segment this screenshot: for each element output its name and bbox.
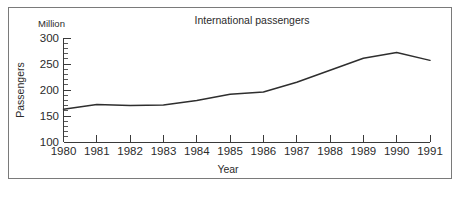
x-tick-label-1986: 1986 — [251, 145, 277, 157]
data-series-line — [64, 53, 431, 110]
y-tick-label-250: 250 — [40, 58, 59, 70]
y-tick-label-200: 200 — [40, 84, 59, 96]
x-tick-label-1988: 1988 — [317, 145, 343, 157]
x-tick-label-1983: 1983 — [151, 145, 177, 157]
y-tick-label-300: 300 — [40, 32, 59, 44]
y-tick-label-150: 150 — [40, 110, 59, 122]
x-tick-label-1982: 1982 — [117, 145, 143, 157]
x-tick-label-1985: 1985 — [217, 145, 243, 157]
figure-container: International passengers Million Passeng… — [0, 0, 467, 197]
line-chart: International passengers Million Passeng… — [0, 0, 467, 197]
x-axis-title: Year — [217, 163, 239, 175]
x-tick-label-1984: 1984 — [184, 145, 210, 157]
x-tick-label-1991: 1991 — [417, 145, 443, 157]
x-tick-label-1990: 1990 — [384, 145, 410, 157]
chart-title: International passengers — [195, 14, 310, 26]
x-tick-label-1987: 1987 — [284, 145, 310, 157]
x-tick-label-1980: 1980 — [51, 145, 77, 157]
x-tick-label-1989: 1989 — [351, 145, 377, 157]
x-tick-label-1981: 1981 — [84, 145, 110, 157]
y-axis-title: Passengers — [14, 62, 26, 117]
x-axis-ticks — [64, 135, 431, 142]
y-axis-unit-label: Million — [38, 18, 65, 29]
